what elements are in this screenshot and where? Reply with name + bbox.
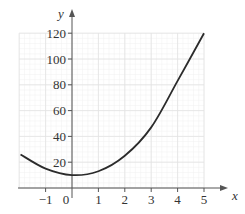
x-axis-arrow-icon [220,185,228,191]
y-tick-label: 40 [53,129,66,144]
x-tick-label: 2 [122,192,129,207]
x-tick-label: 4 [174,192,181,207]
x-tick-label: 5 [201,192,208,207]
x-axis-label: x [231,188,238,203]
y-axis-label: y [56,6,64,21]
chart: −1012345 20406080100120 x y [0,0,245,214]
y-tick-label: 80 [53,77,66,92]
x-axis-ticks: −1012345 [39,188,208,207]
x-tick-label: 1 [95,192,102,207]
y-axis-arrow-icon [69,9,75,17]
y-axis-ticks: 20406080100120 [47,26,73,170]
x-tick-label: 3 [148,192,155,207]
y-tick-label: 20 [53,155,66,170]
y-tick-label: 120 [47,26,67,41]
x-tick-label: −1 [39,192,53,207]
y-tick-label: 100 [47,52,67,67]
y-tick-label: 60 [53,103,66,118]
x-tick-label: 0 [63,192,70,207]
